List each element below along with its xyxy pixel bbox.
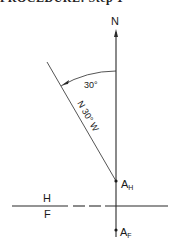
plane-label-h: H [43,192,51,204]
point-a-h [114,179,117,182]
point-a-f [114,228,117,231]
bearing-label: N 30° W [75,99,101,134]
bearing-diagram: N 30° N 30° W H F AH AF [0,0,174,247]
north-label: N [111,15,119,27]
plane-label-f: F [44,208,51,220]
north-arrow-icon [114,29,118,37]
arc-arrow-icon [62,80,69,85]
angle-label: 30° [84,80,98,90]
point-a-h-label: AH [121,178,133,191]
bearing-line [47,62,116,181]
point-a-f-label: AF [120,226,132,239]
